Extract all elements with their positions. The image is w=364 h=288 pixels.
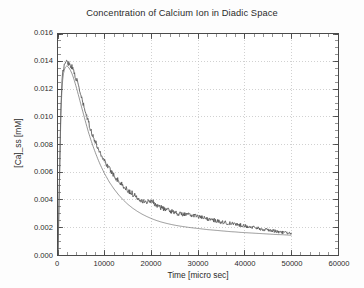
gridlines (58, 34, 338, 255)
chart-title: Concentration of Calcium Ion in Diadic S… (0, 8, 364, 18)
chart-figure: Concentration of Calcium Ion in Diadic S… (0, 0, 364, 288)
x-tick-label: 50000 (281, 259, 302, 268)
series-deterministic (58, 66, 291, 255)
y-tick-label: 0.010 (1, 112, 53, 121)
x-tick-label: 60000 (328, 259, 349, 268)
y-tick-label: 0.002 (1, 223, 53, 232)
y-tick-label: 0.004 (1, 195, 53, 204)
y-tick-label: 0.014 (1, 56, 53, 65)
x-tick-label: 10000 (93, 259, 114, 268)
y-tick-label: 0.008 (1, 140, 53, 149)
y-tick-label: 0.000 (1, 251, 53, 260)
y-axis-tick-labels: 0.0000.0020.0040.0060.0080.0100.0120.014… (0, 33, 53, 256)
x-tick-label: 30000 (187, 259, 208, 268)
y-axis-label: [Ca]_ss [mM] (13, 88, 23, 198)
plot-area (57, 33, 339, 256)
y-tick-label: 0.012 (1, 84, 53, 93)
x-tick-label: 20000 (140, 259, 161, 268)
x-tick-label: 0 (55, 259, 59, 268)
x-axis-label: Time [micro sec] (57, 270, 339, 280)
y-tick-label: 0.016 (1, 28, 53, 37)
y-tick-label: 0.006 (1, 167, 53, 176)
x-tick-label: 40000 (234, 259, 255, 268)
plot-svg (58, 34, 338, 255)
